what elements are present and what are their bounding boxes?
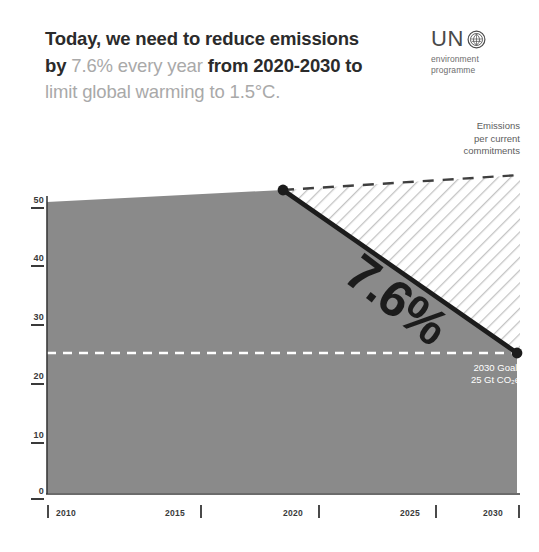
y-axis-label-30: 30 [22, 312, 44, 322]
x-axis-label-2025: 2025 [400, 508, 420, 518]
y-axis-label-20: 20 [22, 371, 44, 381]
x-axis-tick-2025 [435, 505, 437, 518]
goal-label-line2: 25 Gt CO₂e [471, 374, 520, 386]
y-axis-label-50: 50 [22, 195, 44, 205]
y-axis-tick-50 [31, 207, 44, 209]
chart-svg [0, 0, 539, 552]
y-axis-tick-0 [31, 498, 44, 500]
marker-2020-peak [278, 185, 289, 196]
y-axis-tick-40 [31, 265, 44, 267]
y-axis-tick-30 [31, 324, 44, 326]
y-axis-tick-20 [31, 383, 44, 385]
y-axis-label-40: 40 [22, 253, 44, 263]
goal-label-line1: 2030 Goal: [471, 362, 520, 374]
goal-annotation: 2030 Goal: 25 Gt CO₂e [471, 362, 520, 386]
x-axis-tick-2020 [318, 505, 320, 518]
y-axis-label-0: 0 [22, 486, 44, 496]
x-axis-tick-2030 [518, 505, 520, 518]
x-axis-tick-2010 [47, 505, 49, 518]
x-axis-label-2010: 2010 [56, 508, 76, 518]
y-axis-tick-10 [31, 442, 44, 444]
x-axis-label-2030: 2030 [483, 508, 503, 518]
y-axis-label-10: 10 [22, 430, 44, 440]
x-axis-label-2015: 2015 [165, 508, 185, 518]
marker-2030-goal [512, 348, 523, 359]
emissions-chart [0, 0, 539, 552]
x-axis-tick-2015 [200, 505, 202, 518]
x-axis-label-2020: 2020 [283, 508, 303, 518]
